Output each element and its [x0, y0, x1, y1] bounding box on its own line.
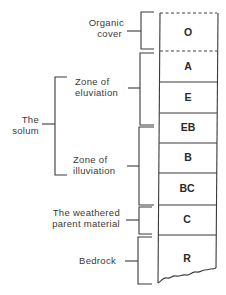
weathered-parent-label-line2: parent material: [52, 218, 120, 229]
soil-column: O A E EB B BC C R: [158, 13, 218, 283]
horizon-a-label: A: [184, 60, 192, 72]
horizon-r-label: R: [183, 252, 191, 264]
illuviation-bracket: [139, 127, 154, 205]
organic-cover-label-line1: Organic: [89, 17, 124, 28]
horizon-brackets: [125, 12, 154, 284]
bedrock-wavy-edge: [158, 268, 216, 283]
soil-profile-diagram: O A E EB B BC C R Organic cover Zone of: [0, 0, 226, 295]
illuviation-label-line2: illuviation: [73, 165, 115, 176]
horizon-b-label: B: [184, 151, 192, 163]
horizon-bc-label: BC: [179, 182, 195, 194]
weathered-parent-bracket: [139, 207, 152, 234]
bedrock-bracket: [138, 237, 152, 284]
weathered-parent-label-line1: The weathered: [53, 207, 120, 218]
solum-bracket-group: [42, 77, 67, 175]
illuviation-label-line1: Zone of: [73, 154, 107, 165]
bracket-labels: Organic cover Zone of eluviation Zone of…: [12, 17, 124, 266]
horizon-e-label: E: [184, 91, 191, 103]
bedrock-label: Bedrock: [79, 255, 116, 266]
eluviation-bracket: [140, 53, 154, 125]
solum-label-line1: The: [22, 114, 39, 125]
organic-cover-label-line2: cover: [97, 28, 122, 39]
organic-cover-bracket: [141, 12, 154, 49]
solum-bracket: [55, 77, 67, 175]
eluviation-label-line2: eluviation: [75, 87, 118, 98]
horizon-o-label: O: [184, 26, 192, 38]
column-left-edge: [158, 13, 160, 283]
eluviation-label-line1: Zone of: [75, 76, 109, 87]
solum-label-line2: solum: [12, 125, 39, 136]
horizon-eb-label: EB: [181, 121, 196, 133]
horizon-c-label: C: [183, 213, 191, 225]
